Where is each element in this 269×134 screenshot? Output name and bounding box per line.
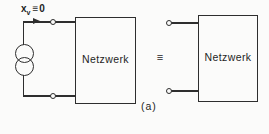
circuit-equivalence-figure: xv≡0 Netzwerk ≡ Netzwerk (a) (0, 0, 269, 134)
wire-source-bottom (23, 75, 25, 97)
network-box-right: Netzwerk (198, 15, 258, 102)
relation-value: 0 (39, 3, 45, 14)
terminal-top-right (166, 20, 172, 26)
source-variable-label: xv≡0 (21, 3, 45, 16)
variable-subscript: v (27, 9, 31, 16)
network-box-left: Netzwerk (75, 17, 136, 104)
network-label-left: Netzwerk (82, 53, 129, 65)
wire-source-top (23, 22, 25, 45)
arrow-right-icon (33, 18, 40, 24)
relation-symbol: ≡ (32, 3, 38, 14)
current-source-circle-bottom (15, 57, 34, 76)
terminal-top-left (50, 19, 56, 25)
terminal-bottom-left (50, 93, 56, 99)
figure-caption: (a) (141, 100, 157, 112)
equivalence-symbol: ≡ (152, 51, 168, 63)
terminal-bottom-right (166, 88, 172, 94)
wire-bottom-right (171, 90, 199, 92)
network-label-right: Netzwerk (205, 51, 252, 63)
wire-top-right (171, 22, 199, 24)
